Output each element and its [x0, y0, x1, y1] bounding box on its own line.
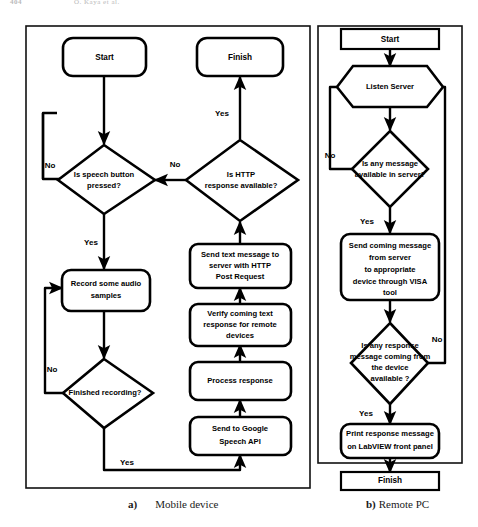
edge-label-http-yes: Yes	[215, 109, 229, 118]
edge-label-speech-yes: Yes	[84, 238, 98, 247]
edge-label-finished-no: No	[47, 365, 58, 374]
node-send-coming-label-1: Send coming message	[349, 241, 431, 250]
node-google-label-2: Speech API	[219, 437, 261, 446]
node-msg-available-label-1: Is any message	[362, 159, 418, 168]
flowchart-canvas: Start Finish Is speech button pressed? I…	[0, 0, 478, 527]
node-http-response-label-1: Is HTTP	[227, 170, 255, 179]
edge-label-http-no: No	[170, 160, 181, 169]
node-speech-button-label-1: Is speech button	[74, 170, 135, 179]
node-response-available-label-1: Is any response	[361, 341, 418, 350]
node-process-response-label: Process response	[207, 376, 272, 385]
caption-a-label: Mobile device	[155, 498, 218, 510]
node-remote-finish-label: Finish	[378, 476, 402, 485]
edge-label-resp-no: No	[432, 335, 443, 344]
figure-page: 404O. Kaya et al.	[0, 0, 478, 527]
caption-b-label: Remote PC	[379, 498, 429, 510]
node-send-text-label-2: server with HTTP	[209, 261, 271, 270]
node-response-available-label-2: message coming from	[350, 352, 431, 361]
caption-mobile-device: a)Mobile device	[128, 498, 218, 510]
node-verify-label-2: response for remote	[203, 320, 276, 329]
node-remote-start-label: Start	[381, 35, 400, 44]
node-http-response-label-2: response available?	[205, 181, 278, 190]
caption-b-marker: b)	[366, 498, 376, 510]
node-listen-server-label: Listen Server	[366, 82, 414, 91]
node-send-google-speech[interactable]	[190, 417, 291, 455]
node-finish-label: Finish	[228, 53, 252, 62]
node-print-label-2: on LabVIEW front panel	[347, 442, 433, 451]
edge-label-msg-yes: Yes	[360, 217, 374, 226]
edge-label-resp-yes: Yes	[359, 409, 373, 418]
node-start-label: Start	[95, 53, 114, 62]
node-msg-available-label-2: available in server?	[355, 170, 426, 179]
node-verify-label-1: Verify coming text	[207, 309, 273, 318]
node-send-text-label-1: Send text message to	[201, 250, 279, 259]
node-response-available-label-4: available ?	[371, 374, 410, 383]
node-send-coming-label-2: from server	[369, 253, 411, 262]
node-google-label-1: Send to Google	[212, 424, 268, 433]
edge-label-msg-no: No	[325, 151, 336, 160]
node-verify-label-3: devices	[226, 331, 254, 340]
node-finished-recording-label: Finished recording?	[69, 388, 142, 397]
node-send-coming-label-5: tool	[383, 288, 397, 297]
edge-resp-no-loop	[428, 87, 445, 363]
node-send-text-label-3: Post Request	[216, 272, 265, 281]
node-response-available-label-3: the device	[371, 363, 408, 372]
node-send-coming-label-3: to appropriate	[364, 265, 415, 274]
node-print-label-1: Print response message	[346, 429, 434, 438]
edge-label-speech-no: No	[45, 161, 56, 170]
caption-remote-pc: b)Remote PC	[366, 498, 429, 510]
node-speech-button-decision[interactable]	[58, 145, 155, 214]
node-send-coming-label-4: device through VISA	[353, 277, 428, 286]
edge-label-finished-yes: Yes	[120, 458, 134, 467]
node-record-audio-label-2: samples	[91, 291, 121, 300]
caption-a-marker: a)	[128, 498, 137, 510]
node-msg-available-decision[interactable]	[352, 131, 428, 207]
node-record-audio-label-1: Record some audio	[71, 279, 142, 288]
node-speech-button-label-2: pressed?	[87, 181, 121, 190]
